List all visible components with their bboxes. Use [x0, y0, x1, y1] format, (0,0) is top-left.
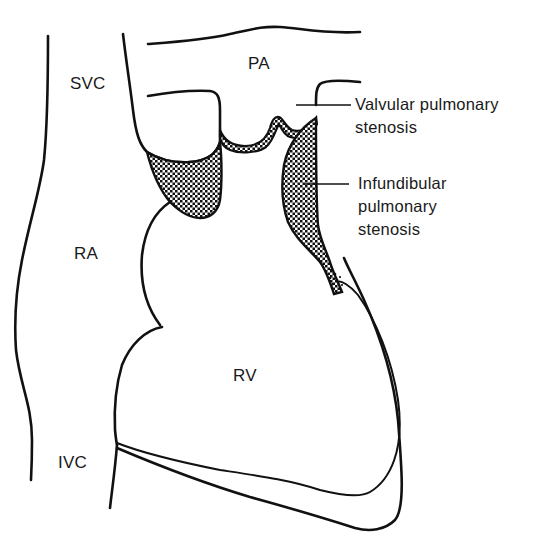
svc-inner-wall: [123, 34, 220, 162]
infundibular-muscle-right: [282, 118, 342, 294]
annotation-infundibular-line3: stenosis: [358, 218, 447, 241]
annotation-infundibular-line1: Infundibular: [358, 172, 447, 195]
rv-inner-wall: [117, 282, 400, 496]
label-ra: RA: [74, 243, 98, 264]
pa-left-wall: [148, 91, 220, 142]
annotation-valvular: Valvular pulmonary stenosis: [355, 93, 499, 139]
ra-outer-wall: [15, 36, 48, 480]
heart-diagram: SVC PA RA RV IVC Valvular pulmonary sten…: [0, 0, 553, 549]
label-pa: PA: [248, 53, 270, 74]
annotation-infundibular: Infundibular pulmonary stenosis: [358, 172, 447, 241]
label-ivc: IVC: [58, 452, 87, 473]
pa-right-wall: [316, 81, 360, 105]
label-svc: SVC: [70, 73, 106, 94]
infundibular-muscle-left: [147, 142, 222, 218]
annotation-infundibular-line2: pulmonary: [358, 195, 447, 218]
annotation-valvular-line1: Valvular pulmonary: [355, 93, 499, 116]
label-rv: RV: [233, 365, 257, 386]
ra-right-border: [142, 202, 170, 325]
annotation-valvular-line2: stenosis: [355, 116, 499, 139]
rv-outer-wall: [117, 258, 402, 530]
rv-left-border: [115, 327, 162, 445]
pa-top-wall: [148, 27, 360, 44]
ivc-right-wall: [110, 445, 117, 508]
